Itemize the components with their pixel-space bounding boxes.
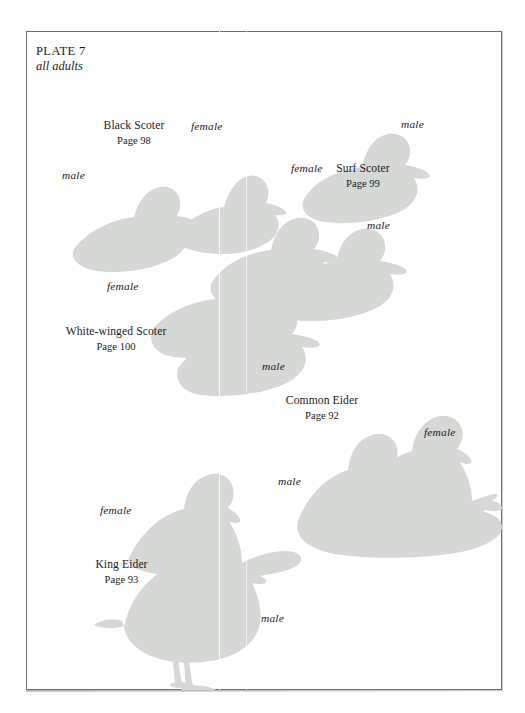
- sex-label-female-black-scoter: female: [191, 120, 223, 132]
- species-name: White-winged Scoter: [46, 325, 186, 340]
- species-caption-common-eider: Common Eider Page 92: [267, 394, 377, 422]
- sex-label-female-surf-scoter: female: [291, 162, 323, 174]
- species-page-reference: Page 100: [46, 340, 186, 354]
- page-title: PLATE 7: [36, 44, 86, 59]
- species-caption-surf-scoter: Surf Scoter Page 99: [313, 162, 413, 190]
- sex-label-female-king-eider: female: [100, 504, 132, 516]
- species-page-reference: Page 93: [74, 573, 169, 587]
- sex-label-male-common-eider: male: [278, 475, 301, 487]
- species-caption-king-eider: King Eider Page 93: [74, 558, 169, 586]
- species-page-reference: Page 98: [84, 134, 184, 148]
- sex-label-female-common-eider: female: [424, 426, 456, 438]
- species-name: King Eider: [74, 558, 169, 573]
- scan-fold-line-right: [246, 31, 247, 690]
- page-edge-shadow: [26, 690, 503, 692]
- sex-label-male-white-winged-scoter: male: [262, 360, 285, 372]
- species-page-reference: Page 99: [313, 177, 413, 191]
- sex-label-male-surf-scoter-lower: male: [367, 219, 390, 231]
- plate-subtitle: all adults: [36, 59, 86, 74]
- species-page-reference: Page 92: [267, 409, 377, 423]
- species-name: Surf Scoter: [313, 162, 413, 177]
- plate-header: PLATE 7 all adults: [36, 44, 86, 75]
- species-name: Black Scoter: [84, 119, 184, 134]
- species-caption-black-scoter: Black Scoter Page 98: [84, 119, 184, 147]
- sex-label-male-black-scoter: male: [62, 169, 85, 181]
- species-name: Common Eider: [267, 394, 377, 409]
- sex-label-male-surf-scoter-upper: male: [401, 118, 424, 130]
- sex-label-female-white-winged-scoter: female: [107, 280, 139, 292]
- sex-label-male-king-eider: male: [261, 612, 284, 624]
- species-caption-white-winged-scoter: White-winged Scoter Page 100: [46, 325, 186, 353]
